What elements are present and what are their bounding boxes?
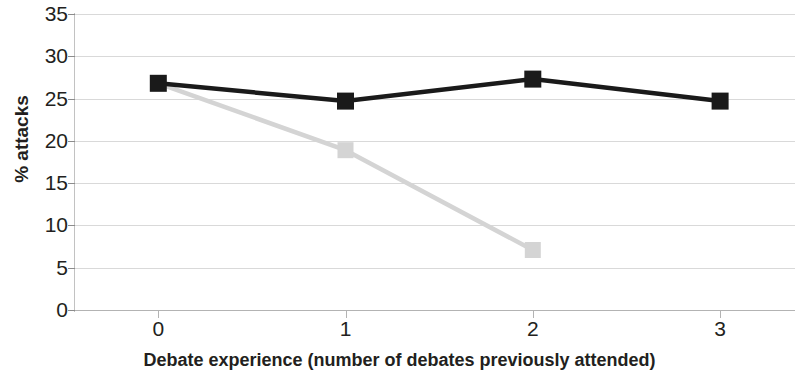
x-axis-title: Debate experience (number of debates pre…: [0, 350, 799, 371]
y-tick-label: 0: [24, 299, 68, 320]
y-tick-mark-5: [68, 268, 75, 269]
y-tick-mark-25: [68, 99, 75, 100]
y-tick-mark-30: [68, 56, 75, 57]
y-tick-mark-10: [68, 225, 75, 226]
x-tick-label: 1: [316, 318, 376, 339]
y-axis-tick-labels: 35302520151050: [16, 0, 68, 379]
gridline-y-10: [74, 225, 795, 226]
y-tick-label: 30: [24, 45, 68, 66]
gridline-y-20: [74, 141, 795, 142]
y-tick-label: 15: [24, 172, 68, 193]
gridline-y-25: [74, 99, 795, 100]
y-tick-label: 5: [24, 257, 68, 278]
x-tick-label: 2: [503, 318, 563, 339]
y-tick-label: 25: [24, 88, 68, 109]
y-tick-label: 10: [24, 214, 68, 235]
chart-figure: % attacks 35302520151050 Debate experien…: [0, 0, 799, 379]
y-tick-mark-35: [68, 14, 75, 15]
y-tick-mark-0: [68, 310, 75, 311]
gridline-y-5: [74, 268, 795, 269]
x-tick-label: 3: [690, 318, 750, 339]
gridline-y-35: [74, 14, 795, 15]
plot-area: [74, 14, 795, 310]
gridline-y-0: [74, 310, 795, 311]
gridline-y-15: [74, 183, 795, 184]
y-tick-label: 20: [24, 130, 68, 151]
x-tick-label: 0: [128, 318, 188, 339]
y-tick-mark-20: [68, 141, 75, 142]
y-tick-mark-15: [68, 183, 75, 184]
gridline-y-30: [74, 56, 795, 57]
y-tick-label: 35: [24, 3, 68, 24]
